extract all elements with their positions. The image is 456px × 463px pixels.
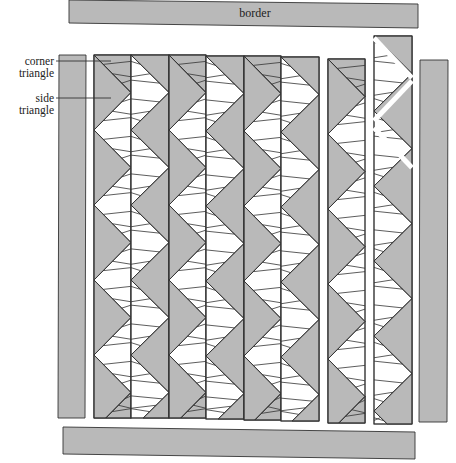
right-border-strip [419,60,448,422]
bottom-border-strip [63,427,415,459]
side-triangle-label: side triangle [0,92,54,116]
left-border-strip [58,55,86,418]
corner-label-line2: triangle [0,67,54,79]
corner-label-line1: corner [0,55,54,67]
side-label-line1: side [0,92,54,104]
corner-triangle-label: corner triangle [0,55,54,79]
side-label-line2: triangle [0,104,54,116]
border-label: border [210,6,300,21]
quilt-assembly-diagram [0,0,456,463]
